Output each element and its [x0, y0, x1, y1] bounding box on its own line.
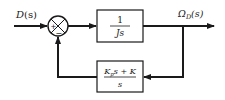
feedback-path-right	[144, 26, 183, 77]
minus-sign: −	[56, 29, 63, 38]
input-label: D(s)	[15, 9, 37, 20]
feedback-block-numerator: Kps + K	[103, 67, 136, 78]
output-label: ΩD(s)	[177, 8, 204, 21]
feedback-path-left	[58, 37, 97, 77]
forward-block: 1 Js	[97, 10, 143, 42]
summing-junction: + −	[48, 16, 68, 38]
feedback-block-denominator: s	[118, 80, 122, 89]
forward-block-numerator: 1	[117, 15, 123, 25]
forward-block-denominator: Js	[114, 28, 125, 38]
block-diagram: D(s) + − 1 Js ΩD(s) Kps + K s	[0, 0, 225, 100]
feedback-block: Kps + K s	[97, 61, 143, 92]
